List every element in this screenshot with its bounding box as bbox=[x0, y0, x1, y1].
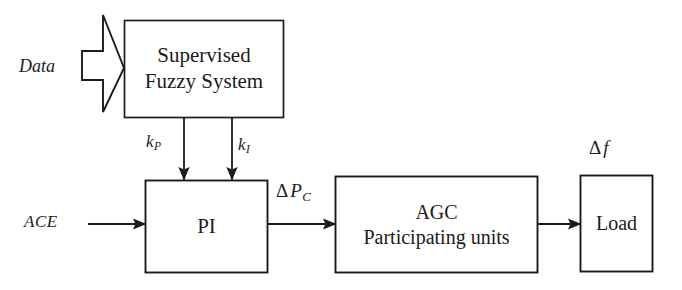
data-block-arrow bbox=[82, 15, 124, 112]
pi-controller-rect bbox=[146, 181, 268, 273]
supervised-fuzzy-system-rect bbox=[125, 21, 284, 118]
block-diagram-canvas: Supervised Fuzzy System PI AGC Participa… bbox=[0, 0, 682, 290]
agc-participating-units-rect bbox=[336, 177, 538, 273]
load-rect bbox=[581, 176, 653, 272]
kp-subscript: P bbox=[154, 140, 161, 153]
kp-base: k bbox=[146, 132, 154, 151]
data-signal-label: Data bbox=[19, 56, 55, 77]
delta-glyph-pc: Δ bbox=[276, 180, 288, 201]
delta-glyph-f: Δ bbox=[589, 137, 601, 158]
ki-signal-label: kI bbox=[238, 135, 250, 156]
delta-f-signal-label: Δf bbox=[589, 137, 609, 159]
df-base: f bbox=[603, 137, 608, 158]
ki-base: k bbox=[238, 135, 246, 154]
kp-signal-label: kP bbox=[146, 132, 161, 153]
dpc-subscript: C bbox=[302, 189, 311, 204]
ace-signal-label: ACE bbox=[24, 212, 58, 232]
dpc-base: P bbox=[290, 180, 302, 201]
ki-subscript: I bbox=[246, 143, 250, 156]
diagram-vector-layer bbox=[0, 0, 682, 290]
delta-pc-signal-label: ΔPC bbox=[276, 180, 311, 205]
